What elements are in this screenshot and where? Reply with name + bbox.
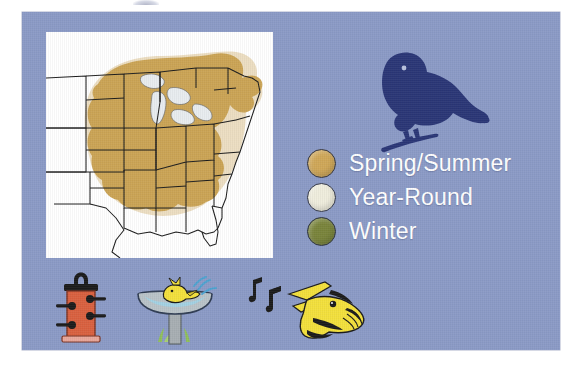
- bird-eye: [330, 301, 336, 307]
- range-map-panel[interactable]: [46, 32, 273, 258]
- legend-item-year-round[interactable]: Year-Round: [307, 180, 511, 214]
- perched-bird-silhouette-icon: [354, 44, 492, 156]
- legend-item-label: Winter: [349, 220, 417, 243]
- bird-silhouette-svg: [354, 44, 492, 156]
- legend-item-spring-summer[interactable]: Spring/Summer: [307, 146, 511, 180]
- range-map-svg: [46, 32, 273, 258]
- bird-bath-svg: [128, 272, 224, 350]
- bird-feeder-svg: [50, 266, 112, 350]
- legend-item-label: Year-Round: [349, 186, 473, 209]
- bird-bath-icon[interactable]: [128, 272, 224, 350]
- bird-info-card: Spring/Summer Year-Round Winter: [22, 12, 560, 350]
- screenshot-stage: Spring/Summer Year-Round Winter: [0, 0, 581, 368]
- seasonal-legend: Spring/Summer Year-Round Winter: [307, 146, 511, 248]
- bird-head: [289, 282, 364, 339]
- bird-feeder-icon[interactable]: [50, 266, 112, 350]
- legend-item-winter[interactable]: Winter: [307, 214, 511, 248]
- singing-bird-svg: [247, 274, 375, 348]
- bird-eye: [402, 66, 407, 71]
- legend-item-label: Spring/Summer: [349, 152, 511, 175]
- music-notes: [249, 277, 281, 312]
- scan-artifact-mark: [133, 0, 159, 5]
- singing-bird-icon[interactable]: [247, 274, 375, 348]
- circle-swatch-icon: [307, 217, 336, 246]
- attraction-icon-row: [22, 258, 560, 350]
- circle-swatch-icon: [307, 149, 336, 178]
- circle-swatch-icon: [307, 183, 336, 212]
